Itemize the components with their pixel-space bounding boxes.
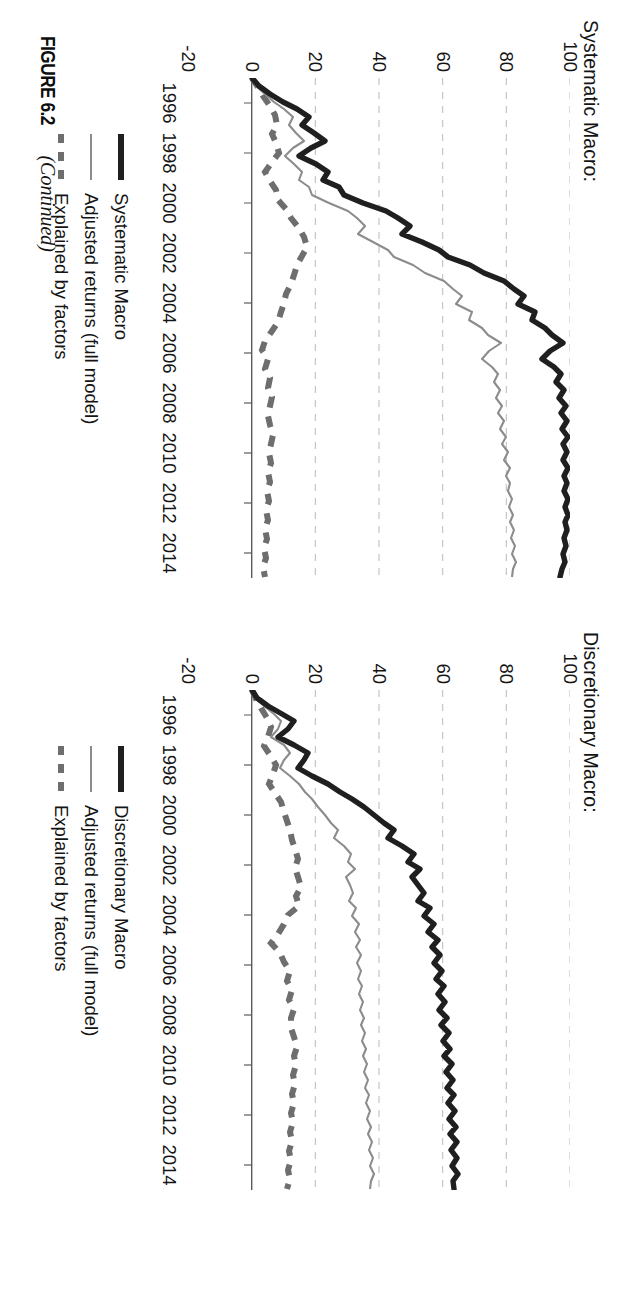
legend-swatch-solid-thick-icon — [112, 134, 130, 180]
y-axis-labels-systematic: 100 80 60 40 20 0 -20 — [188, 14, 570, 72]
figure-caption: FIGURE 6.2 (Continued) — [36, 36, 60, 252]
y-tick-100: 100 — [559, 41, 581, 72]
x-tick-2004: 2004 — [158, 282, 180, 323]
figure-caption-continued: (Continued) — [36, 155, 59, 252]
legend-swatch-solid-thick-icon — [112, 746, 130, 792]
x-tick-2000: 2000 — [158, 182, 180, 223]
plot-area-discretionary — [188, 690, 570, 1190]
legend-label-systematic-macro: Systematic Macro — [110, 193, 132, 340]
x-tick-2002: 2002 — [158, 232, 180, 273]
y-tick-40: 40 — [368, 51, 390, 72]
y-tick-0: 0 — [241, 674, 263, 684]
x-tick-2010: 2010 — [158, 432, 180, 473]
x-tick-2012: 2012 — [158, 1094, 180, 1135]
legend-item-adjusted-returns: Adjusted returns (full model) — [76, 134, 106, 594]
x-tick-2010: 2010 — [158, 1044, 180, 1085]
y-tick-60: 60 — [432, 51, 454, 72]
x-tick-2014: 2014 — [158, 1144, 180, 1185]
legend-item-systematic-macro: Systematic Macro — [106, 134, 136, 594]
plot-area-systematic — [188, 78, 570, 578]
x-tick-2012: 2012 — [158, 482, 180, 523]
series-systematic-macro — [252, 78, 568, 577]
rotated-page: Systematic Macro: 100 80 60 40 20 0 -20 — [0, 0, 628, 1296]
y-tick-60: 60 — [432, 663, 454, 684]
x-tick-marks — [244, 103, 252, 553]
legend-item-discretionary-macro: Discretionary Macro — [106, 746, 136, 1206]
gridlines — [315, 690, 570, 1190]
x-tick-1998: 1998 — [158, 744, 180, 785]
chart-svg-systematic — [188, 78, 570, 578]
figure-caption-number: FIGURE 6.2 — [36, 36, 60, 125]
legend-swatch-solid-thin-icon — [82, 746, 100, 792]
legend-label-explained-by-factors: Explained by factors — [50, 805, 72, 972]
legend-item-adjusted-returns: Adjusted returns (full model) — [76, 746, 106, 1206]
y-axis-labels-discretionary: 100 80 60 40 20 0 -20 — [188, 626, 570, 684]
figure-sheet: Systematic Macro: 100 80 60 40 20 0 -20 — [0, 0, 628, 1296]
y-tick-100: 100 — [559, 653, 581, 684]
series-explained-by-factors — [252, 690, 301, 1189]
series-adjusted-returns — [252, 78, 516, 577]
x-tick-2004: 2004 — [158, 894, 180, 935]
x-tick-1996: 1996 — [158, 82, 180, 123]
gridlines — [315, 78, 570, 578]
legend-label-discretionary-macro: Discretionary Macro — [110, 805, 132, 970]
y-tick-20: 20 — [304, 663, 326, 684]
series-discretionary-macro — [252, 690, 458, 1189]
x-tick-2008: 2008 — [158, 382, 180, 423]
panel-discretionary-macro: Discretionary Macro: 100 80 60 40 20 0 -… — [0, 626, 628, 1226]
panel-title-discretionary: Discretionary Macro: — [579, 632, 602, 813]
chart-svg-discretionary — [188, 690, 570, 1190]
legend-swatch-solid-thin-icon — [82, 134, 100, 180]
panel-systematic-macro: Systematic Macro: 100 80 60 40 20 0 -20 — [0, 14, 628, 614]
legend-label-adjusted-returns: Adjusted returns (full model) — [80, 805, 102, 1036]
x-tick-marks — [244, 715, 252, 1165]
x-tick-2014: 2014 — [158, 532, 180, 573]
x-tick-2000: 2000 — [158, 794, 180, 835]
legend-label-adjusted-returns: Adjusted returns (full model) — [80, 193, 102, 424]
x-tick-1996: 1996 — [158, 694, 180, 735]
x-axis-labels-discretionary: 1996 1998 2000 2002 2004 2006 2008 2010 … — [154, 690, 180, 1190]
y-tick-neg20: -20 — [177, 657, 199, 684]
y-tick-40: 40 — [368, 663, 390, 684]
y-tick-20: 20 — [304, 51, 326, 72]
x-axis-labels-systematic: 1996 1998 2000 2002 2004 2006 2008 2010 … — [154, 78, 180, 578]
y-tick-neg20: -20 — [177, 45, 199, 72]
x-tick-2008: 2008 — [158, 994, 180, 1035]
legend-item-explained-by-factors: Explained by factors — [46, 746, 76, 1206]
y-tick-80: 80 — [495, 663, 517, 684]
x-tick-2006: 2006 — [158, 332, 180, 373]
panel-title-systematic: Systematic Macro: — [579, 20, 602, 182]
legend-discretionary: Discretionary Macro Adjusted returns (fu… — [46, 746, 136, 1206]
legend-swatch-dashed-icon — [52, 746, 70, 792]
x-tick-1998: 1998 — [158, 132, 180, 173]
y-tick-80: 80 — [495, 51, 517, 72]
y-tick-0: 0 — [241, 62, 263, 72]
x-tick-2006: 2006 — [158, 944, 180, 985]
series-explained-by-factors — [252, 78, 307, 577]
x-tick-2002: 2002 — [158, 844, 180, 885]
